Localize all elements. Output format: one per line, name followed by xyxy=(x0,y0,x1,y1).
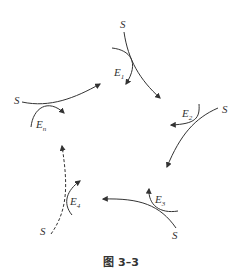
label-s-bottom-right: S xyxy=(172,229,178,241)
arrow-s-left xyxy=(22,84,100,104)
label-e1: E1 xyxy=(113,66,124,81)
label-e3: E3 xyxy=(154,193,166,208)
cycle-diagram: S E1 S E2 S En S E3 S E4 图 3–3 xyxy=(0,0,243,279)
node-bottom-left: S E4 xyxy=(40,146,81,237)
label-s-bottom-left: S xyxy=(40,225,46,237)
arrow-s-right xyxy=(167,108,218,167)
label-s-right: S xyxy=(222,103,228,115)
node-bottom-right: S E3 xyxy=(103,189,178,241)
label-e2: E2 xyxy=(181,107,193,122)
label-en: En xyxy=(35,118,47,133)
arrow-s-bottom-left-dashed xyxy=(51,146,66,234)
node-right: S E2 xyxy=(167,103,228,167)
label-e4: E4 xyxy=(69,195,81,210)
label-s-left: S xyxy=(14,94,20,106)
node-top: S E1 xyxy=(112,18,160,98)
arrow-s-top xyxy=(124,32,160,98)
figure-caption: 图 3–3 xyxy=(103,256,139,269)
label-s-top: S xyxy=(120,18,126,30)
node-left: S En xyxy=(14,84,100,133)
